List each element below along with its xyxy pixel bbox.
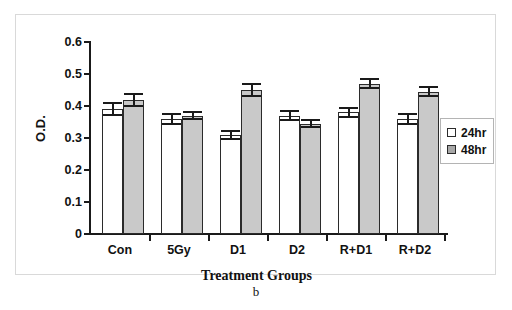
x-group-label-5gy: 5Gy bbox=[152, 243, 206, 257]
x-tick-mark bbox=[149, 235, 151, 241]
y-axis-tick-labels: 0.6 0.5 0.4 0.3 0.2 0.1 0 bbox=[44, 15, 82, 275]
errorbar-d2-24hr bbox=[280, 110, 299, 122]
legend: 24hr 48hr bbox=[440, 118, 494, 164]
y-tick-label: 0.6 bbox=[48, 36, 82, 49]
x-tick-mark bbox=[267, 235, 269, 241]
figure-caption: b bbox=[0, 284, 512, 300]
y-tick-label: 0.2 bbox=[48, 164, 82, 177]
bar-rd2-48hr bbox=[418, 92, 439, 234]
y-tick-label: 0.5 bbox=[48, 68, 82, 81]
legend-item-48hr: 48hr bbox=[447, 141, 486, 158]
bar-rd1-24hr bbox=[338, 112, 359, 234]
bar-rd1-48hr bbox=[359, 84, 380, 234]
errorbar-rd2-24hr bbox=[398, 113, 417, 125]
bar-5gy-48hr bbox=[182, 116, 203, 234]
bar-con-48hr bbox=[123, 100, 144, 234]
y-tick-label: 0.4 bbox=[48, 100, 82, 113]
x-tick-mark bbox=[208, 235, 210, 241]
errorbar-rd2-48hr bbox=[419, 86, 438, 98]
errorbar-d1-48hr bbox=[242, 83, 261, 97]
errorbar-con-24hr bbox=[103, 102, 122, 116]
bar-d1-24hr bbox=[220, 135, 241, 234]
filled-square-icon bbox=[447, 145, 456, 154]
x-group-label-d1: D1 bbox=[211, 243, 265, 257]
errorbar-d2-48hr bbox=[301, 119, 320, 129]
bar-d2-48hr bbox=[300, 124, 321, 234]
errorbar-con-48hr bbox=[124, 93, 143, 107]
x-group-label-d2: D2 bbox=[270, 243, 324, 257]
bar-d2-24hr bbox=[279, 116, 300, 234]
open-square-icon bbox=[447, 128, 456, 137]
x-group-label-rd2: R+D2 bbox=[388, 243, 442, 257]
y-tick-label: 0.1 bbox=[48, 196, 82, 209]
x-tick-mark bbox=[326, 235, 328, 241]
errorbar-5gy-48hr bbox=[183, 111, 202, 121]
chart-screenshot: O.D. 0.6 0.5 0.4 0.3 0.2 0.1 0 bbox=[0, 0, 512, 310]
y-tick-label: 0 bbox=[48, 228, 82, 241]
bar-d1-48hr bbox=[241, 90, 262, 234]
figure-frame: O.D. 0.6 0.5 0.4 0.3 0.2 0.1 0 bbox=[15, 14, 496, 275]
errorbar-rd1-24hr bbox=[339, 107, 358, 117]
bar-con-24hr bbox=[102, 109, 123, 234]
y-tick-label: 0.3 bbox=[48, 132, 82, 145]
x-group-label-con: Con bbox=[93, 243, 147, 257]
plot-area bbox=[90, 42, 446, 234]
x-tick-mark bbox=[385, 235, 387, 241]
bar-5gy-24hr bbox=[161, 119, 182, 234]
errorbar-d1-24hr bbox=[221, 130, 240, 140]
x-axis-title: Treatment Groups bbox=[16, 268, 497, 284]
legend-label-24hr: 24hr bbox=[461, 127, 486, 139]
bar-rd2-24hr bbox=[397, 119, 418, 234]
x-tick-mark bbox=[444, 235, 446, 241]
legend-label-48hr: 48hr bbox=[461, 144, 486, 156]
legend-item-24hr: 24hr bbox=[447, 124, 486, 141]
x-group-label-rd1: R+D1 bbox=[329, 243, 383, 257]
errorbar-rd1-48hr bbox=[360, 78, 379, 90]
errorbar-5gy-24hr bbox=[162, 113, 181, 125]
